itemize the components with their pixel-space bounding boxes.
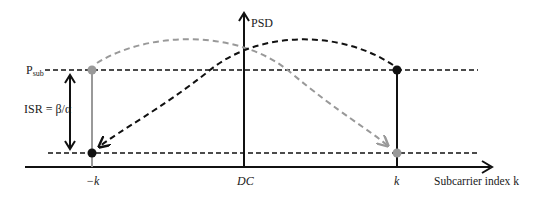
psub-main: P <box>26 63 33 77</box>
x-axis <box>25 161 492 173</box>
tick-neg-k: −k <box>86 175 99 187</box>
gray-mirror-arc <box>97 39 388 146</box>
y-axis <box>239 13 249 167</box>
pos-k-lower-dot <box>393 149 402 158</box>
y-axis-label: PSD <box>251 17 273 29</box>
neg-k-lower-dot <box>88 149 97 158</box>
x-axis-label: Subcarrier index k <box>434 176 519 188</box>
tick-pos-k: k <box>394 175 399 187</box>
black-mirror-arc <box>99 39 393 147</box>
tick-dc: DC <box>237 175 254 187</box>
pos-k-upper-dot <box>393 66 402 75</box>
psub-label: Psub <box>26 64 44 78</box>
neg-k-upper-dot <box>88 66 97 75</box>
isr-label: ISR = β/α <box>24 103 71 115</box>
psub-subscript: sub <box>33 69 44 78</box>
